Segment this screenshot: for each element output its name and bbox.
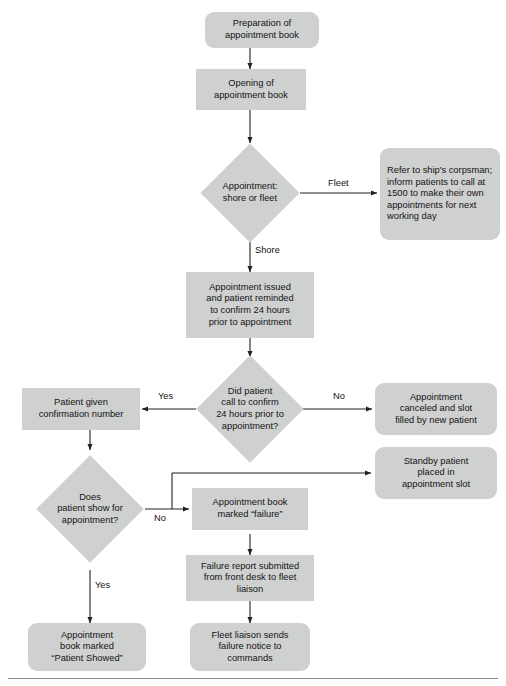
node-appointment-canceled: Appointment canceled and slot filled by … [375,383,497,435]
node-opening: Opening of appointment book [196,69,306,110]
decision-does-patient-show-label: Does patient show for appointment? [52,492,128,527]
node-patient-showed-label: Appointment book marked “Patient Showed” [51,630,122,665]
node-failure-notice: Fleet liaison sends failure notice to co… [190,623,310,671]
node-failure-notice-label: Fleet liaison sends failure notice to co… [212,630,289,665]
node-preparation: Preparation of appointment book [205,12,319,48]
node-preparation-label: Preparation of appointment book [225,18,299,41]
node-patient-showed: Appointment book marked “Patient Showed” [28,623,146,671]
node-fleet-referral-label: Refer to ship's corpsman; inform patient… [387,165,492,223]
edge-label-yes-show: Yes [95,580,110,591]
node-appointment-issued: Appointment issued and patient reminded … [186,272,314,338]
edge-label-fleet: Fleet [328,178,349,189]
edge-label-shore: Shore [255,245,280,256]
decision-did-patient-call-label: Did patient call to confirm 24 hours pri… [212,386,288,432]
edge-label-yes-call: Yes [158,391,173,402]
node-failure-report: Failure report submitted from front desk… [186,555,314,601]
edge-label-no-show: No [154,513,166,524]
node-failure-report-label: Failure report submitted from front desk… [201,561,299,596]
node-confirmation-number: Patient given confirmation number [22,388,140,430]
node-fleet-referral: Refer to ship's corpsman; inform patient… [380,148,500,240]
node-opening-label: Opening of appointment book [214,78,288,101]
node-confirmation-number-label: Patient given confirmation number [39,397,124,420]
decision-did-patient-call: Did patient call to confirm 24 hours pri… [212,371,288,447]
flowchart-canvas: Preparation of appointment book Opening … [0,0,506,686]
node-book-marked-failure: Appointment book marked “failure” [192,488,308,530]
footer-divider [8,678,498,679]
edge-label-no-call: No [333,391,345,402]
node-appointment-canceled-label: Appointment canceled and slot filled by … [395,392,477,427]
node-standby-patient: Standby patient placed in appointment sl… [375,447,497,499]
node-standby-patient-label: Standby patient placed in appointment sl… [402,456,470,491]
node-appointment-issued-label: Appointment issued and patient reminded … [206,282,293,328]
node-book-marked-failure-label: Appointment book marked “failure” [213,497,288,520]
decision-does-patient-show: Does patient show for appointment? [52,471,128,547]
decision-shore-or-fleet-label: Appointment: shore or fleet [215,181,285,204]
decision-shore-or-fleet: Appointment: shore or fleet [215,158,285,228]
